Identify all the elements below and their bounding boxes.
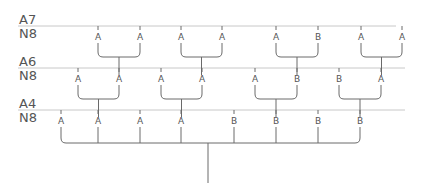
node: B — [336, 68, 342, 84]
node: A — [137, 26, 144, 42]
node-label: B — [315, 116, 321, 126]
node: A — [137, 110, 144, 126]
node-label: A — [252, 74, 259, 84]
node: B — [231, 110, 237, 126]
node-label: A — [158, 74, 165, 84]
pair-bracket — [181, 43, 222, 57]
level-top-label: A7 — [19, 12, 36, 27]
pair-bracket — [255, 85, 297, 99]
node-label: A — [137, 32, 144, 42]
node: A — [95, 110, 102, 126]
node-label: A — [95, 32, 102, 42]
node: A — [399, 26, 406, 42]
node-label: A — [116, 74, 123, 84]
node: A — [273, 26, 280, 42]
node: A — [178, 26, 185, 42]
node-label: B — [357, 116, 363, 126]
node-rows: AAAAABAAAAAAABBAAAAABBBB — [58, 26, 406, 183]
node-label: A — [178, 32, 185, 42]
pair-bracket — [98, 43, 140, 57]
node-label: A — [58, 116, 65, 126]
level-a4: A4N8 — [18, 96, 405, 125]
node: A — [358, 26, 365, 42]
node-label: A — [273, 32, 280, 42]
node: A — [199, 68, 206, 84]
node: A — [219, 26, 226, 42]
node: A — [178, 110, 185, 126]
node: A — [75, 68, 82, 84]
level-bottom-label: N8 — [19, 68, 37, 83]
pair-bracket — [78, 85, 119, 99]
pair-bracket — [361, 43, 402, 57]
node-label: A — [75, 74, 82, 84]
level-bottom-label: N8 — [19, 110, 37, 125]
level-a7: A7N8 — [18, 12, 396, 41]
pair-bracket — [276, 43, 318, 57]
node-label: A — [137, 116, 144, 126]
node-label: A — [378, 74, 385, 84]
level-top-label: A6 — [19, 54, 36, 69]
row-3: AAAABBBB — [58, 110, 363, 183]
root-bracket — [61, 127, 360, 143]
level-top-label: A4 — [19, 96, 36, 111]
node-label: A — [199, 74, 206, 84]
node: A — [116, 68, 123, 84]
node: B — [273, 110, 279, 126]
node: B — [315, 26, 321, 42]
node-label: A — [358, 32, 365, 42]
node: B — [357, 110, 363, 126]
node-label: B — [294, 74, 300, 84]
pair-bracket — [161, 85, 202, 99]
node-label: A — [219, 32, 226, 42]
level-lines: A7N8A6N8A4N8 — [18, 12, 405, 125]
node: A — [252, 68, 259, 84]
node: A — [58, 110, 65, 126]
node-label: A — [178, 116, 185, 126]
node: B — [315, 110, 321, 126]
node-label: B — [231, 116, 237, 126]
node-label: A — [95, 116, 102, 126]
node: A — [158, 68, 165, 84]
node-label: B — [336, 74, 342, 84]
node-label: B — [273, 116, 279, 126]
node-label: B — [315, 32, 321, 42]
node: B — [294, 68, 300, 84]
node: A — [95, 26, 102, 42]
pair-bracket — [339, 85, 381, 99]
pedigree-tree-diagram: A7N8A6N8A4N8 AAAAABAAAAAAABBAAAAABBBB — [0, 0, 422, 192]
node-label: A — [399, 32, 406, 42]
node: A — [378, 68, 385, 84]
level-bottom-label: N8 — [19, 26, 37, 41]
